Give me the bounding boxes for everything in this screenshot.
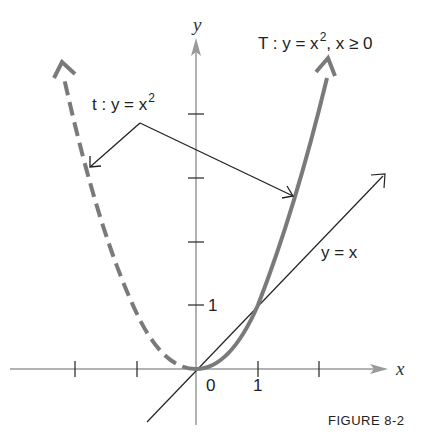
curve-t-label-exponent: 2 [148,91,155,105]
x-tick-label-1: 1 [253,376,262,396]
y-tick-label-1: 1 [208,296,217,316]
origin-label: 0 [206,376,215,396]
curve-T-label-condition: , x ≥ 0 [326,34,372,53]
line-y-equals-x [147,174,385,422]
curve-T-solid [196,58,335,369]
annotation-arrows [90,123,293,198]
figure-caption: FIGURE 8-2 [328,413,405,428]
x-axis-label: x [396,358,404,380]
curve-T-label-exponent: 2 [320,30,327,44]
curve-t-label-text: t : y = x [92,95,147,114]
y-axis-label: y [193,14,201,36]
curve-T-label: T : y = x2, x ≥ 0 [258,34,373,54]
figure-8-2: y x 0 1 1 t : y = x2 T : y = x2, x ≥ 0 y… [0,0,430,445]
curve-T-label-text: T : y = x [258,34,319,53]
curve-t-label: t : y = x2 [92,95,155,115]
line-label: y = x [321,243,357,263]
